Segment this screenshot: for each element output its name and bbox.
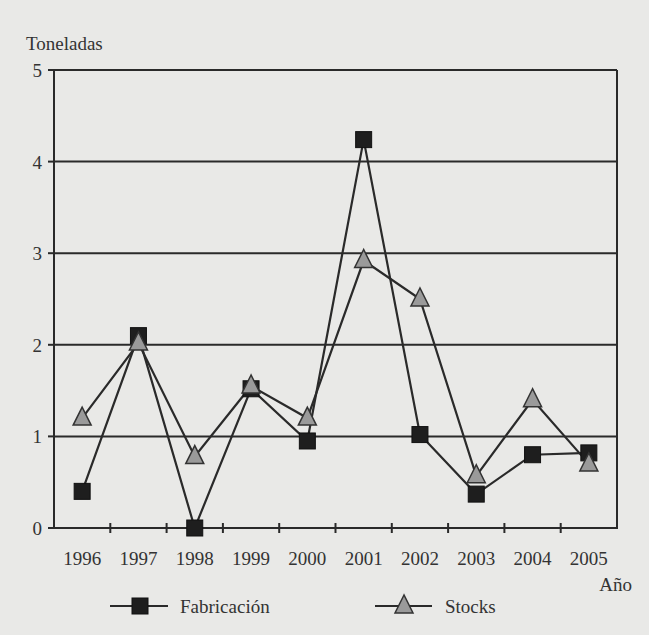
x-tick-label: 2003 [457, 548, 495, 569]
x-tick-label: 2000 [288, 548, 326, 569]
x-axis: 1996199719981999200020012002200320042005 [54, 523, 617, 569]
y-tick-label: 4 [33, 152, 43, 173]
legend-triangle-icon [395, 595, 413, 613]
y-tick-label: 1 [33, 426, 43, 447]
square-marker [74, 483, 90, 499]
legend-label: Stocks [445, 596, 496, 617]
legend-label: Fabricación [180, 596, 270, 617]
square-marker [356, 132, 372, 148]
x-tick-label: 1998 [176, 548, 214, 569]
square-marker [525, 447, 541, 463]
x-tick-label: 2005 [570, 548, 608, 569]
legend: FabricaciónStocks [110, 595, 496, 617]
x-tick-label: 2002 [401, 548, 439, 569]
square-marker [299, 433, 315, 449]
y-tick-label: 2 [33, 335, 43, 356]
legend-item-stocks: Stocks [375, 595, 496, 617]
line-chart: Toneladas 012345 19961997199819992000200… [0, 0, 649, 635]
legend-square-icon [132, 598, 148, 614]
triangle-marker [411, 288, 429, 306]
triangle-marker [524, 389, 542, 407]
series-markers [73, 132, 598, 536]
y-tick-label: 3 [33, 243, 43, 264]
square-marker [412, 427, 428, 443]
x-tick-label: 1996 [63, 548, 101, 569]
legend-item-fabricación: Fabricación [110, 596, 270, 617]
x-axis-title: Año [599, 574, 632, 595]
series-lines [82, 140, 589, 528]
y-tick-label: 0 [33, 518, 43, 539]
square-marker [468, 486, 484, 502]
y-tick-label: 5 [33, 60, 43, 81]
square-marker [187, 520, 203, 536]
x-tick-label: 2004 [514, 548, 553, 569]
x-tick-label: 1997 [119, 548, 157, 569]
series-line-fabricación [82, 140, 589, 528]
x-tick-label: 2001 [345, 548, 383, 569]
y-axis-title: Toneladas [26, 33, 103, 54]
x-tick-label: 1999 [232, 548, 270, 569]
y-axis: 012345 [33, 60, 618, 539]
